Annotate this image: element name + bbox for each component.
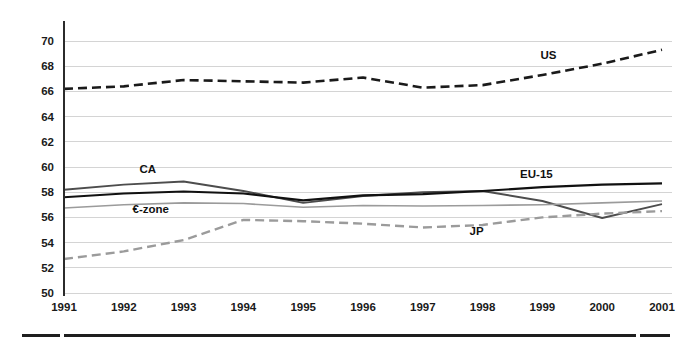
x-tick-labels-group: 1991199219931994199519961997199819992000… [51,301,675,313]
y-tick-label: 52 [41,262,54,274]
series-label-zone: €-zone [132,203,168,215]
x-tick-label: 1999 [530,301,556,313]
x-tick-label: 1994 [231,301,257,313]
x-tick-label: 2000 [589,301,615,313]
x-tick-label: 1998 [470,301,496,313]
plot-svg: 5052545658606264666870 19911992199319941… [0,0,683,316]
footer-rule-middle-segment [64,334,636,337]
y-tick-label: 66 [41,85,54,97]
x-tick-label: 1996 [350,301,376,313]
series-line-us [64,50,662,89]
series-line-jp [64,211,662,259]
x-tick-label: 1995 [290,301,316,313]
x-tick-label: 1993 [171,301,197,313]
x-tick-label: 2001 [649,301,675,313]
footer-rule-right-segment [640,334,670,337]
y-tick-label: 64 [41,111,54,123]
footer-rule [0,334,683,338]
y-tick-label: 60 [41,161,54,173]
footer-rule-left-segment [22,334,60,337]
y-tick-label: 70 [41,35,54,47]
series-label-jp: JP [470,225,484,237]
x-tick-label: 1991 [51,301,77,313]
chart-page: 5052545658606264666870 19911992199319941… [0,0,683,346]
data-series-group [64,50,662,259]
series-labels-group: USCAEU-15€-zoneJP [132,49,556,237]
y-tick-label: 50 [41,287,54,299]
y-tick-label: 68 [41,60,54,72]
y-tick-label: 58 [41,186,54,198]
series-label-us: US [540,49,556,61]
y-tick-labels-group: 5052545658606264666870 [41,35,54,299]
y-tick-label: 54 [41,237,54,249]
x-tick-label: 1992 [111,301,137,313]
series-label-eu-15: EU-15 [520,168,553,180]
y-tick-label: 62 [41,136,54,148]
series-label-ca: CA [139,163,156,175]
x-tick-label: 1997 [410,301,436,313]
line-chart: 5052545658606264666870 19911992199319941… [0,0,683,316]
y-tick-label: 56 [41,211,54,223]
